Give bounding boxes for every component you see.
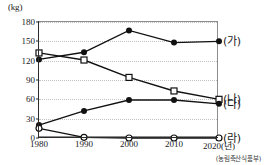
x-axis-line bbox=[38, 137, 218, 138]
data-point-marker bbox=[171, 40, 177, 46]
legend-label-1: (가) bbox=[223, 32, 241, 48]
x-axis-tick-label: 1980 bbox=[30, 139, 48, 149]
data-point-marker bbox=[126, 135, 132, 141]
plot-area: 0306090120150180 19801990200020102020(년) bbox=[38, 21, 218, 137]
data-point-marker bbox=[36, 50, 42, 56]
data-point-marker bbox=[216, 135, 222, 141]
y-axis-tick-label: 30 bbox=[26, 114, 35, 124]
y-axis-tick-label: 60 bbox=[26, 94, 35, 104]
data-point-marker bbox=[36, 125, 42, 131]
legend-label-3: (다) bbox=[223, 95, 241, 111]
series-2 bbox=[36, 50, 222, 102]
data-point-marker bbox=[126, 97, 132, 103]
data-point-marker bbox=[171, 97, 177, 103]
y-axis-tick-label: 90 bbox=[26, 75, 35, 85]
y-axis-unit-label: (kg) bbox=[8, 2, 22, 12]
source-attribution: (농림축산식품부) bbox=[216, 153, 261, 163]
data-point-marker bbox=[171, 135, 177, 141]
data-point-marker bbox=[81, 49, 87, 55]
data-point-marker bbox=[126, 74, 132, 80]
y-axis-tick-label: 120 bbox=[22, 56, 36, 66]
series-4 bbox=[36, 125, 222, 141]
data-point-marker bbox=[216, 101, 222, 107]
data-point-marker bbox=[126, 27, 132, 33]
series-line bbox=[39, 100, 219, 125]
data-point-marker bbox=[216, 38, 222, 44]
data-point-marker bbox=[81, 108, 87, 114]
data-series-layer bbox=[39, 22, 219, 138]
legend-label-4: (라) bbox=[223, 129, 241, 145]
series-line bbox=[39, 30, 219, 59]
data-point-marker bbox=[81, 57, 87, 63]
y-axis-tick-label: 180 bbox=[22, 17, 36, 27]
y-axis-line bbox=[38, 21, 39, 137]
chart-container: (kg) 0306090120150180 198019902000201020… bbox=[0, 0, 265, 165]
y-axis-tick-label: 150 bbox=[22, 36, 36, 46]
data-point-marker bbox=[171, 88, 177, 94]
data-point-marker bbox=[36, 56, 42, 62]
series-3 bbox=[36, 97, 222, 128]
